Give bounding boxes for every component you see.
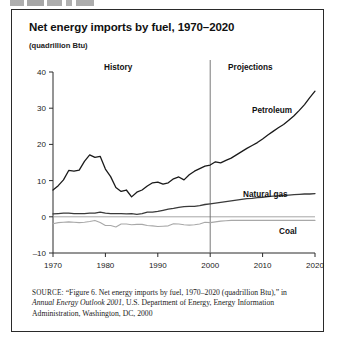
series-line-coal [53, 220, 315, 227]
region-label-projections: Projections [228, 63, 273, 72]
source-part-1: “Figure 6. Net energy imports by fuel, 1… [64, 288, 287, 297]
y-axis-tick-label: 0 [42, 213, 47, 222]
y-axis-tick-label: 10 [37, 177, 46, 186]
series-label-natural-gas: Natural gas [243, 190, 288, 199]
line-chart: –10010203040197019801990200020102020 [12, 10, 325, 333]
region-label-history: History [104, 63, 132, 72]
x-axis-tick-label: 2000 [201, 261, 219, 270]
series-label-coal: Coal [279, 227, 297, 236]
figure-container: Net energy imports by fuel, 1970–2020 (q… [11, 9, 324, 332]
x-axis-tick-label: 1990 [149, 261, 167, 270]
series-label-petroleum: Petroleum [252, 106, 292, 115]
x-axis-tick-label: 2020 [306, 261, 324, 270]
chart-plot-area: –10010203040197019801990200020102020 [12, 10, 325, 333]
x-axis-tick-label: 2010 [254, 261, 272, 270]
source-note: SOURCE: “Figure 6. Net energy imports by… [32, 288, 310, 319]
y-axis-tick-label: –10 [33, 249, 47, 258]
y-axis-tick-label: 40 [37, 68, 46, 77]
source-prefix: SOURCE: [32, 289, 64, 297]
x-axis-tick-label: 1970 [44, 261, 62, 270]
y-axis-tick-label: 20 [37, 140, 46, 149]
cut-off-header-fragment [10, 0, 94, 6]
source-publication-title: Annual Energy Outlook 2001 [32, 298, 122, 307]
x-axis-tick-label: 1980 [97, 261, 115, 270]
y-axis-tick-label: 30 [37, 104, 46, 113]
